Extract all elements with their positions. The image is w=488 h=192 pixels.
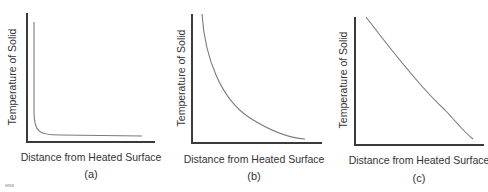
scan-artifact-mark [5, 184, 14, 187]
curve-b [202, 14, 305, 139]
panel-c: Temperature of Solid Distance from Heate… [337, 17, 488, 184]
x-axis-label-a: Distance from Heated Surface [21, 151, 162, 163]
axes-a [27, 13, 155, 142]
x-axis-label-c: Distance from Heated Surface [349, 154, 488, 166]
caption-c: (c) [413, 172, 426, 184]
y-axis-label-a: Temperature of Solid [6, 28, 18, 125]
caption-a: (a) [84, 168, 97, 180]
curve-a [34, 22, 142, 136]
caption-b: (b) [247, 170, 260, 182]
axes-c [355, 17, 484, 145]
figure: Temperature of Solid Distance from Heate… [0, 0, 488, 192]
y-axis-label-c: Temperature of Solid [337, 31, 349, 128]
axes-b [192, 14, 322, 143]
y-axis-label-b: Temperature of Solid [175, 29, 187, 126]
panel-a: Temperature of Solid Distance from Heate… [6, 13, 161, 180]
panel-b: Temperature of Solid Distance from Heate… [175, 14, 324, 182]
x-axis-label-b: Distance from Heated Surface [184, 153, 325, 165]
curve-c [366, 17, 473, 139]
